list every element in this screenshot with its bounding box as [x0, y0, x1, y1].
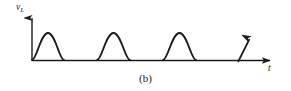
- y-axis-label-subscript: L: [20, 6, 24, 14]
- waveform-pulse-3: [163, 33, 196, 60]
- y-axis-label: vL: [16, 3, 24, 14]
- break-continuation-arrow: [238, 39, 250, 62]
- waveform-pulse-1: [32, 33, 64, 60]
- figure-container: vL t (b): [0, 0, 291, 91]
- figure-caption: (b): [0, 73, 291, 84]
- waveform-pulse-2: [97, 33, 130, 60]
